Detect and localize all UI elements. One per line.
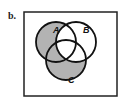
set-label-a: A [52,25,60,35]
venn-diagram: A B C [0,0,123,98]
set-label-b: B [83,25,90,35]
set-label-c: C [68,75,75,85]
